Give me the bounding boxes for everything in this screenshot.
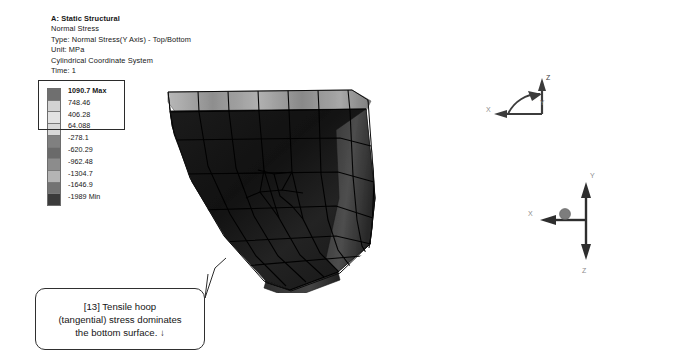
- result-viewport: A: Static Structural Normal Stress Type:…: [0, 0, 675, 362]
- legend-swatch-6[interactable]: [48, 159, 60, 171]
- legend-swatch-0[interactable]: [48, 89, 60, 101]
- result-type: Type: Normal Stress(Y Axis) - Top/Bottom: [51, 35, 311, 45]
- legend-swatch-7[interactable]: [48, 171, 60, 183]
- legend-swatch-2[interactable]: [48, 112, 60, 124]
- legend-swatch-8[interactable]: [48, 183, 60, 195]
- legend-label-1: 748.46: [68, 99, 90, 107]
- result-time: Time: 1: [51, 66, 311, 76]
- callout-line-2: (tangential) stress dominates: [58, 313, 181, 326]
- legend-label-4: -278.1: [68, 134, 89, 142]
- legend-swatch-5[interactable]: [48, 148, 60, 160]
- legend-label-3: 64.088: [68, 122, 90, 130]
- legend-label-8: -1646.9: [68, 181, 93, 189]
- legend-label-7: -1304.7: [68, 170, 93, 178]
- legend-label-9: -1989 Min: [68, 193, 100, 201]
- legend-swatch-4[interactable]: [48, 136, 60, 148]
- annotation-callout[interactable]: [13] Tensile hoop (tangential) stress do…: [35, 288, 205, 350]
- triad-origin-sphere: [560, 209, 571, 220]
- legend-label-6: -962.48: [68, 158, 93, 166]
- legend-swatch-1[interactable]: [48, 101, 60, 113]
- result-name: Normal Stress: [51, 24, 311, 34]
- legend-label-list: 1090.7 Max748.46406.2864.088-278.1-620.2…: [68, 86, 130, 208]
- legend-label-0: 1090.7 Max: [68, 87, 106, 95]
- legend-label-2: 406.28: [68, 111, 90, 119]
- model-3d-view[interactable]: [140, 78, 395, 293]
- legend-label-5: -620.29: [68, 146, 93, 154]
- triad-upper-label-x: X: [486, 106, 491, 113]
- callout-line-3: the bottom surface. ↓: [75, 326, 165, 339]
- global-coordinate-triad[interactable]: Y X Z: [520, 168, 620, 278]
- cylindrical-coordinate-triad[interactable]: Z X Y: [480, 72, 560, 142]
- triad-upper-label-z: Z: [546, 74, 551, 81]
- result-unit: Unit: MPa: [51, 45, 311, 55]
- result-header: A: Static Structural Normal Stress Type:…: [51, 14, 311, 76]
- legend-swatch-3[interactable]: [48, 124, 60, 136]
- callout-line-1: [13] Tensile hoop: [84, 300, 156, 313]
- stress-legend[interactable]: 1090.7 Max748.46406.2864.088-278.1-620.2…: [44, 86, 130, 208]
- result-coordinate-system: Cylindrical Coordinate System: [51, 56, 311, 66]
- triad-lower-label-z: Z: [582, 267, 587, 274]
- legend-color-bar[interactable]: [47, 88, 61, 206]
- legend-swatch-9[interactable]: [48, 194, 60, 205]
- triad-lower-label-x: X: [528, 210, 533, 217]
- triad-upper-label-y: Y: [540, 99, 545, 106]
- result-analysis-system: A: Static Structural: [51, 14, 311, 24]
- mesh-model-graphic: [140, 78, 395, 293]
- triad-lower-label-y: Y: [590, 172, 595, 179]
